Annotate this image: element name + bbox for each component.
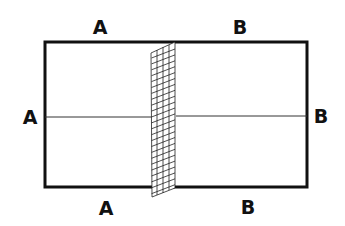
label-left: A: [23, 108, 38, 127]
grid-strip: [151, 42, 175, 197]
label-right: B: [314, 107, 328, 126]
label-bottom-right: B: [241, 198, 255, 217]
label-top-right: B: [233, 18, 247, 37]
diagram-canvas: [0, 0, 345, 226]
outer-rectangle: [45, 42, 307, 187]
label-bottom-left: A: [99, 199, 114, 218]
label-top-left: A: [93, 18, 108, 37]
